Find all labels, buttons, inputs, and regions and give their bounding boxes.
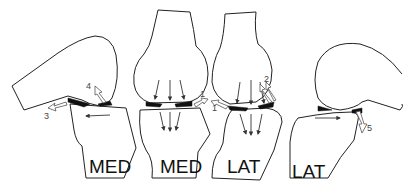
diagram-drawing <box>0 0 411 189</box>
panel-4-label: LAT <box>292 162 325 181</box>
femur-condyle-outline <box>315 43 403 110</box>
arrow-label-1-right: 1 <box>212 104 217 113</box>
arrow-label-3: 3 <box>44 112 49 121</box>
load-arrow <box>155 80 159 99</box>
hollow-arrow-3 <box>48 102 67 111</box>
panel-4-lateral-sagittal <box>290 43 403 178</box>
spread-arrow <box>258 114 262 134</box>
panel-1-label: MED <box>89 157 131 176</box>
femur-outline <box>212 12 272 104</box>
meniscus-lateral <box>258 102 274 109</box>
panel-2-medial-coronal <box>134 10 210 178</box>
arrow-label-4: 4 <box>86 82 91 91</box>
panel-3-lateral-coronal <box>211 12 282 180</box>
arrow-label-2: 2 <box>264 75 269 84</box>
meniscus-medial <box>228 106 248 111</box>
panel-2-label: MED <box>160 157 202 176</box>
load-arrow <box>237 82 240 103</box>
knee-meniscus-diagram: MED MED LAT LAT 1 1 2 3 4 5 <box>0 0 411 189</box>
tibia-shift-arrow <box>86 115 110 116</box>
load-arrow <box>180 80 184 99</box>
spread-arrow <box>240 114 246 134</box>
meniscus-posterior <box>318 106 332 111</box>
femur-outline <box>134 10 208 103</box>
arrow-label-5: 5 <box>367 124 372 133</box>
spread-arrow <box>176 112 180 130</box>
spread-arrow <box>160 112 164 130</box>
arrow-label-1-left: 1 <box>200 90 205 99</box>
panel-3-label: LAT <box>227 157 260 176</box>
hollow-arrow-4 <box>95 86 106 103</box>
